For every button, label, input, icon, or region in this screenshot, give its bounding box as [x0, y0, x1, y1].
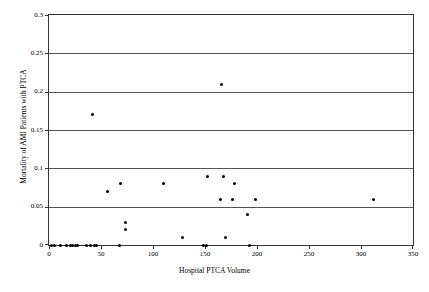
data-point: [248, 244, 251, 247]
data-point: [124, 221, 127, 224]
x-axis-tick-label: 350: [398, 251, 428, 258]
data-point: [65, 244, 68, 247]
data-point: [91, 113, 94, 116]
y-axis-tick-mark: [45, 207, 49, 208]
y-axis-tick-mark: [45, 53, 49, 54]
y-axis-tick-label: 0.15: [13, 127, 43, 134]
data-point: [119, 182, 122, 185]
data-point: [220, 83, 223, 86]
data-point: [89, 244, 92, 247]
data-point: [219, 198, 222, 201]
data-point: [254, 198, 257, 201]
data-point: [85, 244, 88, 247]
y-axis-tick-label: 0.25: [13, 50, 43, 57]
data-point: [231, 198, 234, 201]
data-point: [76, 244, 79, 247]
x-axis-tick-mark: [257, 245, 258, 249]
data-point: [162, 182, 165, 185]
x-axis-tick-label: 100: [138, 251, 168, 258]
gridline-horizontal: [49, 168, 413, 169]
data-point: [53, 244, 56, 247]
y-axis-tick-label: 0.1: [13, 165, 43, 172]
gridline-horizontal: [49, 207, 413, 208]
x-axis-tick-mark: [412, 245, 413, 249]
x-axis-tick-label: 250: [294, 251, 324, 258]
x-axis-tick-label: 150: [190, 251, 220, 258]
gridline-horizontal: [49, 53, 413, 54]
x-axis-tick-mark: [101, 245, 102, 249]
y-axis-tick-mark: [45, 130, 49, 131]
data-point: [106, 190, 109, 193]
data-point: [118, 244, 121, 247]
scatter-plot-figure: 00.050.10.150.20.250.3050100150200250300…: [0, 0, 429, 292]
y-axis-tick-mark: [45, 92, 49, 93]
y-axis-tick-mark: [45, 15, 49, 16]
data-point: [222, 175, 225, 178]
x-axis-tick-label: 200: [242, 251, 272, 258]
data-point: [206, 175, 209, 178]
x-axis-tick-mark: [361, 245, 362, 249]
y-axis-tick-label: 0.3: [13, 12, 43, 19]
x-axis-tick-label: 0: [34, 251, 64, 258]
data-point: [95, 244, 98, 247]
data-point: [205, 244, 208, 247]
gridline-horizontal: [49, 130, 413, 131]
y-axis-title: Mortality of AMI Patients with PTCA: [19, 32, 28, 222]
data-point: [224, 236, 227, 239]
data-point: [59, 244, 62, 247]
data-point: [124, 228, 127, 231]
x-axis-tick-mark: [309, 245, 310, 249]
y-axis-tick-mark: [45, 168, 49, 169]
x-axis-title: Hospital PTCA Volume: [0, 266, 429, 275]
gridline-horizontal: [49, 92, 413, 93]
x-axis-tick-label: 50: [86, 251, 116, 258]
plot-area: 00.050.10.150.20.250.3050100150200250300…: [48, 14, 414, 246]
x-axis-tick-mark: [153, 245, 154, 249]
data-point: [233, 182, 236, 185]
y-axis-tick-label: 0.05: [13, 203, 43, 210]
y-axis-tick-label: 0: [13, 242, 43, 249]
data-point: [181, 236, 184, 239]
data-point: [372, 198, 375, 201]
y-axis-tick-label: 0.2: [13, 88, 43, 95]
x-axis-tick-label: 300: [346, 251, 376, 258]
data-point: [246, 213, 249, 216]
